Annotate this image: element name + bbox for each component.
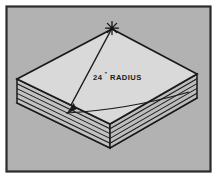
radius-label-text: RADIUS bbox=[110, 73, 142, 82]
radius-stack-diagram: 24 " RADIUS bbox=[0, 0, 217, 178]
inch-mark-text: " bbox=[105, 71, 108, 77]
radius-value-text: 24 bbox=[93, 73, 103, 82]
center-point-dot bbox=[110, 26, 113, 29]
figure-container: 24 " RADIUS bbox=[0, 0, 217, 178]
radius-annotation: 24 " RADIUS bbox=[93, 71, 142, 82]
